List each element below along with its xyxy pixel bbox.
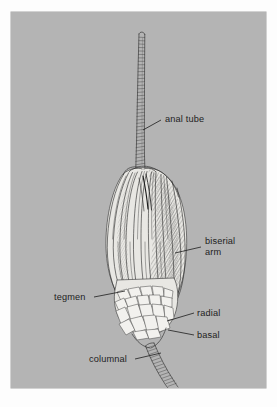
label-basal: basal — [197, 330, 220, 340]
anal-tube-structure — [136, 32, 145, 168]
basal-plates — [116, 304, 174, 340]
label-columnal: columnal — [89, 354, 127, 364]
figure-panel: anal tube biserial arm tegmen radial bas… — [11, 12, 266, 388]
crinoid-illustration: anal tube biserial arm tegmen radial bas… — [11, 12, 266, 388]
columnal-stalk — [146, 343, 179, 388]
leader-anal-tube — [143, 120, 161, 130]
leader-basal — [168, 330, 194, 335]
columnal-discs — [146, 345, 176, 386]
label-biserial-arm-line2: arm — [205, 247, 221, 257]
calyx — [114, 278, 177, 348]
leader-columnal — [135, 353, 161, 359]
label-radial: radial — [197, 308, 220, 318]
label-tegmen: tegmen — [54, 292, 86, 302]
label-anal-tube: anal tube — [165, 114, 204, 124]
figure-root: anal tube biserial arm tegmen radial bas… — [0, 0, 277, 407]
label-biserial-arm-line1: biserial — [205, 236, 235, 246]
